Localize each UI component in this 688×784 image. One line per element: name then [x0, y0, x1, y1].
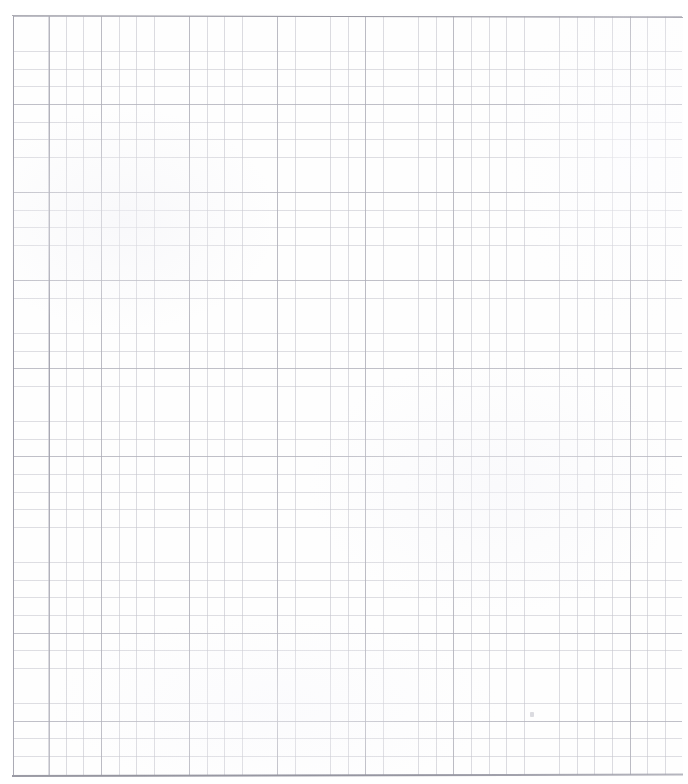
paper-edge-top [0, 0, 688, 14]
left-margin-rule [13, 16, 14, 775]
grid-major-lines [13, 16, 682, 775]
paper-edge-right [683, 0, 688, 784]
graph-paper-page [0, 0, 688, 784]
paper-edge-left [0, 0, 12, 784]
paper-edge-bottom [0, 777, 688, 784]
pencil-speck-mark [530, 712, 534, 717]
second-margin-rule [49, 16, 50, 775]
